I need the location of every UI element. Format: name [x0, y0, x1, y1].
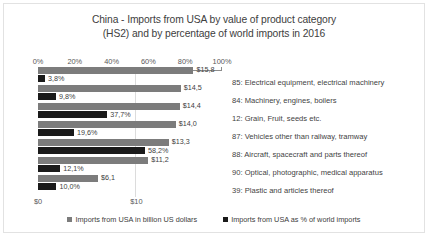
bar-percent	[38, 93, 56, 100]
bar-percent-label: 19,6%	[77, 129, 97, 136]
bar-value-label: $6,1	[101, 174, 115, 181]
chart-legend: Imports from USA in billion US dollarsIm…	[4, 215, 424, 224]
chart-title: China - Imports from USA by value of pro…	[4, 13, 424, 40]
legend-label: Imports from USA as % of world imports	[231, 215, 360, 224]
bar-percent	[38, 183, 56, 190]
bar-percent-label: 9,8%	[59, 93, 75, 100]
category-label-0: 85: Electrical equipment, electrical mac…	[232, 74, 428, 92]
bar-percent	[38, 111, 107, 118]
bottom-axis-tick-labels: $0$10	[38, 197, 222, 208]
bar-group: $11,212,1%	[38, 156, 222, 174]
bar-percent-label: 12,1%	[63, 165, 83, 172]
bar-percent-label: 58,2%	[148, 147, 168, 154]
category-label-6: 39: Plastic and articles thereof	[232, 182, 428, 200]
plot-area: $15,83,8%$14,59,8%$14,437,7%$14,019,6%$1…	[38, 66, 222, 192]
category-label-4: 88: Aircraft, spacecraft and parts there…	[232, 146, 428, 164]
bottom-axis-tick-0: $0	[34, 197, 42, 206]
category-label-1: 84: Machinery, engines, boilers	[232, 92, 428, 110]
bar-value-label: $15,8	[196, 66, 214, 73]
legend-swatch-icon	[67, 217, 72, 222]
bar-value-label: $14,4	[183, 102, 201, 109]
legend-swatch-icon	[223, 217, 228, 222]
bar-value	[38, 103, 180, 110]
bar-group: $14,59,8%	[38, 84, 222, 102]
chart-title-line-1: China - Imports from USA by value of pro…	[4, 13, 424, 27]
bar-percent	[38, 147, 145, 154]
top-axis-tick-1: 20%	[67, 57, 82, 66]
bar-percent	[38, 165, 60, 172]
bar-value	[38, 157, 148, 164]
bar-percent	[38, 75, 45, 82]
bar-group: $15,83,8%	[38, 66, 222, 84]
category-label-3: 87: Vehicles other than railway, tramway	[232, 128, 428, 146]
bar-group: $6,110,0%	[38, 174, 222, 192]
bar-value	[38, 121, 176, 128]
bar-group: $14,437,7%	[38, 102, 222, 120]
bar-value-label: $14,5	[184, 84, 202, 91]
top-axis-tick-5: 100%	[213, 57, 232, 66]
chart-title-line-2: (HS2) and by percentage of world imports…	[4, 27, 424, 41]
bar-value	[38, 139, 169, 146]
bar-group: $14,019,6%	[38, 120, 222, 138]
category-label-list: 85: Electrical equipment, electrical mac…	[232, 74, 428, 200]
bar-value-label: $11,2	[151, 156, 168, 163]
top-axis-tick-4: 80%	[178, 57, 193, 66]
bar-percent-label: 37,7%	[110, 111, 130, 118]
bar-value	[38, 85, 181, 92]
top-axis-tick-3: 60%	[141, 57, 156, 66]
bottom-axis-tick-1: $10	[130, 197, 142, 206]
bar-value-label: $14,0	[179, 120, 197, 127]
top-axis-tick-2: 40%	[104, 57, 119, 66]
bar-value-label: $13,3	[172, 138, 190, 145]
bar-percent-label: 3,8%	[48, 75, 64, 82]
bar-group: $13,358,2%	[38, 138, 222, 156]
legend-entry-1[interactable]: Imports from USA as % of world imports	[223, 215, 360, 224]
legend-entry-0[interactable]: Imports from USA in billion US dollars	[67, 215, 197, 224]
category-label-2: 12: Grain, Fruit, seeds etc.	[232, 110, 428, 128]
category-label-5: 90: Optical, photographic, medical appar…	[232, 164, 428, 182]
legend-label: Imports from USA in billion US dollars	[75, 215, 197, 224]
bar-value	[38, 175, 98, 182]
bar-value	[38, 67, 193, 74]
top-axis-tick-0: 0%	[33, 57, 44, 66]
chart-container: China - Imports from USA by value of pro…	[3, 3, 425, 233]
bar-percent-label: 10,0%	[59, 183, 79, 190]
bar-percent	[38, 129, 74, 136]
